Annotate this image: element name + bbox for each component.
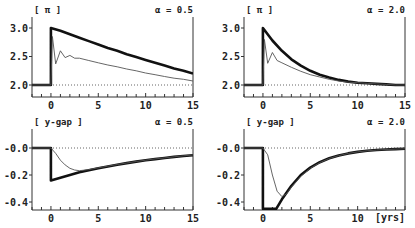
panel-ygap-alpha-2.0: [ y-gap ] α = 2.0 [yrs] 0510-0.0-0.2-0.4 — [216, 117, 405, 224]
y-tick-label: 3.0 — [222, 23, 240, 34]
x-tick-label: 10 — [140, 213, 152, 224]
alpha-annotation: α = 2.0 — [367, 117, 405, 127]
x-tick-label: 15 — [187, 100, 199, 111]
panel-title: [ y-gap ] — [34, 117, 83, 127]
series-line-thin — [32, 148, 193, 171]
panel-title: [ π ] — [34, 5, 61, 15]
figure: [ π ] α = 0.5 0510152.02.53.0 [ π ] α = … — [0, 0, 415, 228]
x-tick-label: 10 — [352, 213, 364, 224]
x-tick-label: 0 — [48, 100, 54, 111]
series-line-thick — [32, 148, 193, 180]
x-tick-label: 5 — [95, 213, 101, 224]
x-tick-label: 0 — [260, 213, 266, 224]
chart-canvas: [ π ] α = 0.5 0510152.02.53.0 [ π ] α = … — [0, 0, 415, 228]
y-tick-label: 3.0 — [10, 23, 28, 34]
series-line-thick — [32, 28, 193, 85]
y-tick-label: -0.0 — [216, 143, 240, 154]
x-tick-label: 15 — [399, 100, 411, 111]
y-tick-label: 2.0 — [222, 80, 240, 91]
x-tick-label: 15 — [187, 213, 199, 224]
x-tick-label: 0 — [48, 213, 54, 224]
x-axis-label-yrs: [yrs] — [375, 212, 405, 223]
panel-pi-alpha-2.0: [ π ] α = 2.0 0510152.02.53.0 — [222, 5, 411, 111]
y-tick-label: -0.2 — [216, 170, 240, 181]
x-tick-label: 0 — [260, 100, 266, 111]
alpha-annotation: α = 0.5 — [155, 5, 193, 15]
alpha-annotation: α = 2.0 — [367, 5, 405, 15]
panel-ygap-alpha-0.5: [ y-gap ] α = 0.5 051015-0.0-0.2-0.4 — [4, 117, 199, 224]
y-tick-label: -0.4 — [216, 197, 240, 208]
alpha-annotation: α = 0.5 — [155, 117, 193, 127]
series-line-thin — [244, 39, 405, 85]
series-line-thin — [32, 37, 193, 86]
y-tick-label: 2.5 — [10, 51, 28, 62]
series-line-thick — [244, 28, 405, 85]
panel-pi-alpha-0.5: [ π ] α = 0.5 0510152.02.53.0 — [10, 5, 199, 111]
y-tick-label: 2.5 — [222, 51, 240, 62]
x-tick-label: 10 — [140, 100, 152, 111]
x-tick-label: 5 — [307, 100, 313, 111]
panel-title: [ y-gap ] — [246, 117, 295, 127]
x-tick-label: 10 — [352, 100, 364, 111]
y-tick-label: -0.4 — [4, 197, 28, 208]
series-line-thin — [244, 148, 405, 197]
panel-title: [ π ] — [246, 5, 273, 15]
y-tick-label: -0.0 — [4, 143, 28, 154]
y-tick-label: 2.0 — [10, 80, 28, 91]
y-tick-label: -0.2 — [4, 170, 28, 181]
x-tick-label: 5 — [307, 213, 313, 224]
x-tick-label: 5 — [95, 100, 101, 111]
